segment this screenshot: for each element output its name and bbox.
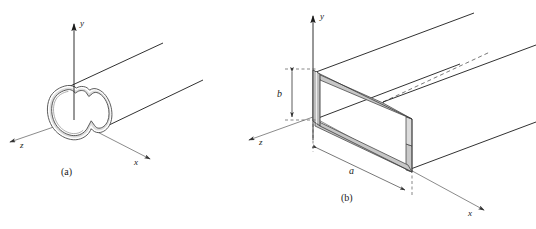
- tube-ruling-top: [66, 43, 163, 88]
- dimension-label-b: b: [277, 89, 282, 99]
- panel-b-x-axis-label: x: [468, 209, 472, 218]
- tube-ruling-bottom: [107, 80, 203, 126]
- waveguide-top-far-edge: [316, 13, 474, 72]
- panel-a-caption: (a): [61, 167, 72, 177]
- waveguide-top-near-edge: [383, 45, 536, 102]
- waveguide-inner-bottom-slab: [315, 120, 412, 172]
- panel-a-cross-section: [47, 85, 112, 139]
- panel-b-axes: [249, 16, 484, 210]
- panel-a-graphic: [0, 0, 536, 229]
- panel-a-y-axis-label: y: [80, 19, 84, 28]
- panel-a-z-axis-label: z: [20, 141, 24, 150]
- panel-b-caption: (b): [341, 193, 353, 203]
- waveguide-hidden-edge: [383, 52, 490, 102]
- panel-a-x-axis-label: x: [134, 158, 138, 167]
- waveguide-figure: y x z (a) y x z b a (b): [0, 0, 536, 229]
- waveguide-right-wall-upper: [406, 117, 412, 146]
- panel-b-z-axis-label: z: [259, 138, 263, 147]
- dimension-label-a: a: [349, 166, 354, 176]
- waveguide-bottom-far-edge: [313, 64, 460, 120]
- waveguide-bottom-near-edge: [408, 122, 536, 170]
- waveguide-aperture-bottom-edge: [320, 126, 412, 172]
- panel-b-rectangular-waveguide: [313, 13, 536, 172]
- panel-b-y-axis-label: y: [320, 12, 324, 21]
- dim-a-arrow: [317, 148, 405, 190]
